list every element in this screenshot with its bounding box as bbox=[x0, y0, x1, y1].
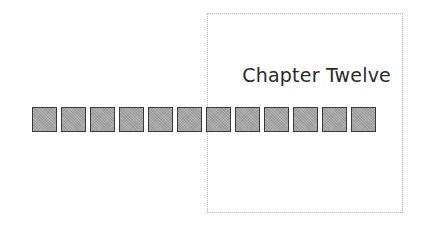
square-8 bbox=[235, 107, 260, 132]
square-5 bbox=[148, 107, 173, 132]
square-row bbox=[32, 107, 376, 132]
square-2 bbox=[61, 107, 86, 132]
square-9 bbox=[264, 107, 289, 132]
square-3 bbox=[90, 107, 115, 132]
square-11 bbox=[322, 107, 347, 132]
square-12 bbox=[351, 107, 376, 132]
square-10 bbox=[293, 107, 318, 132]
chapter-title: Chapter Twelve bbox=[242, 64, 391, 86]
square-1 bbox=[32, 107, 57, 132]
square-6 bbox=[177, 107, 202, 132]
square-4 bbox=[119, 107, 144, 132]
square-7 bbox=[206, 107, 231, 132]
